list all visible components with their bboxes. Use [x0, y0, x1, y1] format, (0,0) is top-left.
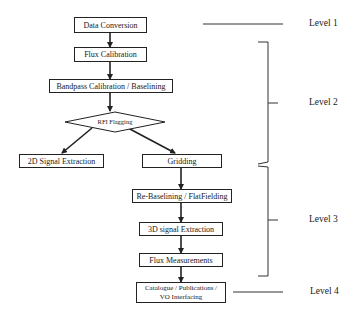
level1-label: Level 1	[309, 18, 338, 28]
level3-bracket	[258, 166, 268, 276]
node-data-conversion-label: Data Conversion	[84, 21, 138, 30]
node-rfi-flagging-label: RFI Flagging	[65, 118, 165, 125]
node-catalogue-label-line2: VO Interfacing	[160, 293, 203, 302]
node-gridding-label: Gridding	[168, 157, 197, 166]
node-2d-signal-extraction: 2D Signal Extraction	[19, 154, 104, 168]
node-rebaselining-label: Re-Baselining / FlatFielding	[136, 192, 227, 201]
node-catalogue-label-line1: Catalogue / Publications /	[145, 284, 217, 293]
node-flux-measurements: Flux Measurements	[139, 253, 223, 267]
level2-bracket	[258, 42, 268, 164]
node-3d-signal-extraction: 3D signal Extraction	[139, 222, 223, 236]
node-flux-measurements-label: Flux Measurements	[149, 256, 212, 265]
level2-label: Level 2	[309, 97, 338, 107]
node-data-conversion: Data Conversion	[74, 17, 147, 33]
node-flux-calibration: Flux Calibration	[74, 47, 147, 62]
level3-label: Level 3	[309, 214, 338, 224]
node-gridding: Gridding	[142, 154, 222, 168]
node-rebaselining: Re-Baselining / FlatFielding	[132, 189, 232, 203]
arrow-rfi-to-gridding	[128, 128, 175, 153]
level4-label: Level 4	[310, 286, 339, 296]
node-bandpass-calibration: Bandpass Calibration / Baselining	[49, 79, 173, 93]
node-flux-calibration-label: Flux Calibration	[84, 50, 137, 59]
node-bandpass-calibration-label: Bandpass Calibration / Baselining	[56, 82, 165, 91]
node-2d-signal-extraction-label: 2D Signal Extraction	[28, 157, 96, 166]
node-catalogue: Catalogue / Publications / VO Interfacin…	[136, 282, 226, 303]
arrow-rfi-to-2d	[62, 128, 92, 153]
node-3d-signal-extraction-label: 3D signal Extraction	[148, 225, 214, 234]
